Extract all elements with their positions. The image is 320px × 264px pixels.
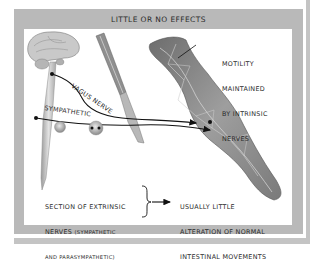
effect-line-2: ALTERATION OF NORMAL [180,228,266,236]
motility-line-3: BY INTRINSIC [222,110,268,118]
motility-label: MOTILITY MAINTAINED BY INTRINSIC NERVES [222,43,268,152]
sympathetic-origin-dot [34,116,38,120]
nerve-ending-dot [208,120,212,124]
cause-line-2-small: (SYMPATHETIC [75,229,116,235]
cause-line-2-main: NERVES [45,228,75,236]
cause-line-2: NERVES (SYMPATHETIC [45,228,126,236]
effect-caption: USUALLY LITTLE ALTERATION OF NORMAL INTE… [180,186,266,264]
synapse-dot [91,127,94,130]
motility-line-1: MOTILITY [222,60,268,68]
ganglion-1 [55,122,66,133]
effect-line-1: USUALLY LITTLE [180,203,266,211]
cause-caption: SECTION OF EXTRINSIC NERVES (SYMPATHETIC… [45,186,126,264]
vagus-origin-dot [50,72,54,76]
cause-line-1: SECTION OF EXTRINSIC [45,203,126,211]
synapse-dot [98,127,101,130]
effect-line-3: INTESTINAL MOVEMENTS [180,253,266,261]
motility-line-2: MAINTAINED [222,85,268,93]
cause-line-3: AND PARASYMPATHETIC) [45,253,126,261]
brace-icon [142,186,151,217]
scalpel-icon [96,33,144,143]
spinal-cord [41,62,56,190]
motility-line-4: NERVES [222,135,268,143]
